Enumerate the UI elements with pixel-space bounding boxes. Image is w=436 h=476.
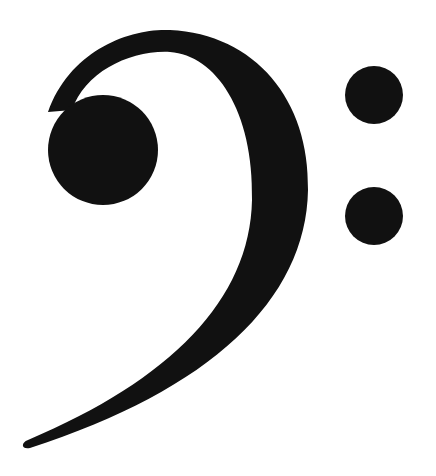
clef-dot-bottom — [345, 187, 403, 245]
clef-dot-top — [345, 66, 403, 124]
bass-clef-image: Black F (bass) clef music symbol on whit… — [0, 0, 436, 476]
bass-clef-icon — [0, 0, 436, 476]
clef-curve — [23, 30, 308, 448]
clef-head — [48, 95, 158, 205]
